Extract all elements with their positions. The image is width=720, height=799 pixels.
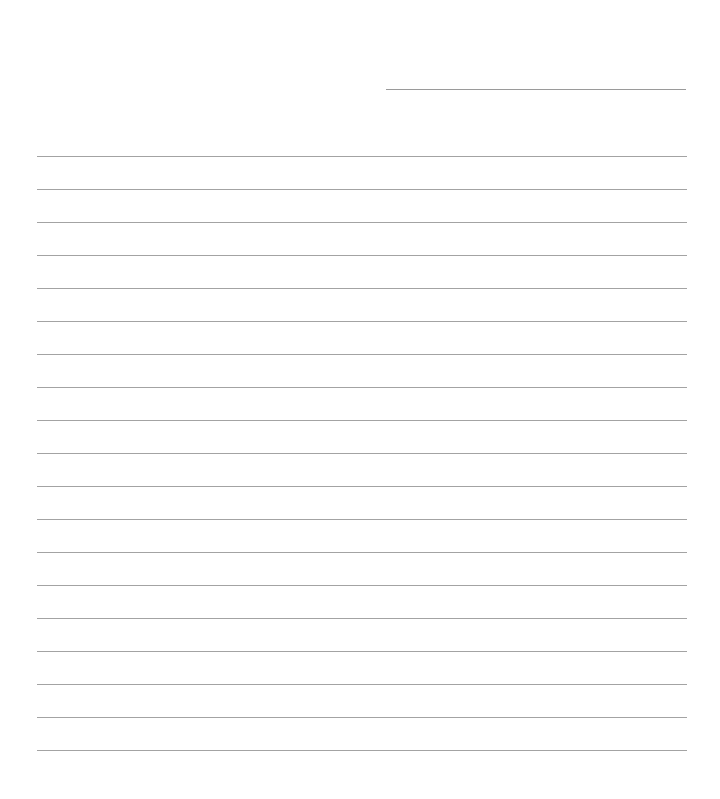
ruled-line	[37, 354, 687, 355]
ruled-line	[37, 717, 687, 718]
lined-paper-page	[0, 0, 720, 799]
ruled-line	[37, 585, 687, 586]
ruled-line	[37, 156, 687, 157]
ruled-line	[37, 750, 687, 751]
ruled-line	[37, 255, 687, 256]
ruled-line	[37, 420, 687, 421]
ruled-line	[37, 222, 687, 223]
ruled-line	[37, 288, 687, 289]
ruled-line	[37, 387, 687, 388]
ruled-line	[37, 189, 687, 190]
ruled-line	[37, 519, 687, 520]
ruled-line	[37, 651, 687, 652]
ruled-line	[37, 684, 687, 685]
ruled-line	[37, 486, 687, 487]
ruled-line	[37, 453, 687, 454]
ruled-lines	[0, 0, 720, 799]
ruled-line	[37, 321, 687, 322]
ruled-line	[37, 618, 687, 619]
ruled-line	[37, 552, 687, 553]
